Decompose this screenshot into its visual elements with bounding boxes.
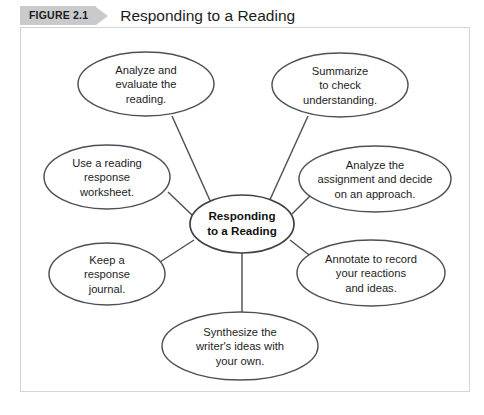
badge-chevron-icon bbox=[96, 7, 108, 25]
figure-header: FIGURE 2.1 Responding to a Reading bbox=[20, 6, 295, 25]
figure-title: Responding to a Reading bbox=[120, 8, 295, 24]
figure-frame bbox=[20, 27, 470, 392]
figure-number-badge: FIGURE 2.1 bbox=[20, 6, 96, 25]
figure-container: FIGURE 2.1 Responding to a Reading Analy… bbox=[0, 0, 484, 415]
figure-number-label: FIGURE 2.1 bbox=[29, 10, 88, 21]
